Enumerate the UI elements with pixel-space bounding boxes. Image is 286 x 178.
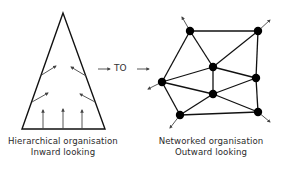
network-graph [162,31,258,115]
hierarchical-title: Hierarchical organisation [2,136,124,147]
hierarchical-subtitle: Inward looking [2,147,124,158]
hierarchy-triangle [22,13,105,129]
networked-title: Networked organisation [150,136,272,147]
outward-arrows [148,17,270,128]
transition-label: TO [114,63,127,73]
networked-subtitle: Outward looking [150,147,272,158]
networked-caption: Networked organisation Outward looking [150,136,272,158]
hierarchical-caption: Hierarchical organisation Inward looking [2,136,124,158]
